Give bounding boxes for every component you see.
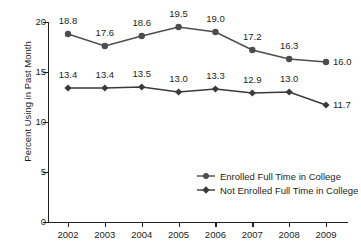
x-tick-label: 2002 bbox=[48, 229, 88, 240]
data-point-label: 18.8 bbox=[48, 15, 88, 26]
data-point-label: 13.4 bbox=[48, 69, 88, 80]
chart-legend: Enrolled Full Time in College Not Enroll… bbox=[196, 169, 358, 197]
data-point-label: 11.7 bbox=[333, 99, 351, 110]
y-tick-label: 20 bbox=[6, 16, 46, 27]
x-tick-mark bbox=[179, 222, 180, 227]
x-tick-mark bbox=[289, 222, 290, 227]
data-point-marker bbox=[138, 83, 145, 90]
data-point-label: 17.2 bbox=[232, 31, 272, 42]
data-point-label: 13.5 bbox=[122, 68, 162, 79]
data-point-marker bbox=[286, 88, 293, 95]
data-point-marker bbox=[175, 88, 182, 95]
data-point-marker bbox=[64, 84, 71, 91]
data-point-marker bbox=[212, 85, 219, 92]
x-tick-label: 2004 bbox=[122, 229, 162, 240]
y-tick-label: 10 bbox=[6, 116, 46, 127]
data-point-marker bbox=[65, 31, 71, 37]
data-point-marker bbox=[323, 59, 329, 65]
y-axis-title: Percent Using in Past Month bbox=[22, 17, 33, 187]
data-point-label: 16.3 bbox=[269, 40, 309, 51]
x-tick-label: 2009 bbox=[306, 229, 346, 240]
data-point-label: 13.0 bbox=[269, 73, 309, 84]
data-point-label: 18.6 bbox=[122, 17, 162, 28]
data-point-marker bbox=[139, 33, 145, 39]
data-point-label: 17.6 bbox=[85, 27, 125, 38]
data-point-label: 12.9 bbox=[232, 74, 272, 85]
x-tick-mark bbox=[142, 222, 143, 227]
data-point-marker bbox=[249, 47, 255, 53]
data-point-label: 16.0 bbox=[333, 56, 352, 67]
x-tick-mark bbox=[326, 222, 327, 227]
x-tick-label: 2006 bbox=[195, 229, 235, 240]
data-point-marker bbox=[212, 29, 218, 35]
y-tick-label: 5 bbox=[6, 166, 46, 177]
x-tick-label: 2005 bbox=[159, 229, 199, 240]
x-tick-mark bbox=[105, 222, 106, 227]
x-tick-label: 2003 bbox=[85, 229, 125, 240]
legend-marker-diamond-icon bbox=[196, 184, 216, 196]
x-tick-mark bbox=[68, 222, 69, 227]
data-point-marker bbox=[249, 89, 256, 96]
data-point-marker bbox=[102, 43, 108, 49]
x-axis-line bbox=[48, 222, 348, 223]
x-tick-label: 2008 bbox=[269, 229, 309, 240]
legend-marker-circle-icon bbox=[196, 170, 216, 182]
legend-item-not-enrolled: Not Enrolled Full Time in College bbox=[196, 183, 358, 197]
data-point-marker bbox=[286, 56, 292, 62]
x-tick-mark bbox=[252, 222, 253, 227]
legend-label-enrolled: Enrolled Full Time in College bbox=[220, 171, 341, 182]
chart-container: Percent Using in Past Month 05101520 200… bbox=[0, 0, 361, 252]
data-point-label: 19.0 bbox=[195, 13, 235, 24]
data-point-marker bbox=[175, 24, 181, 30]
y-tick-label: 15 bbox=[6, 66, 46, 77]
data-point-label: 19.5 bbox=[159, 8, 199, 19]
x-tick-label: 2007 bbox=[232, 229, 272, 240]
data-point-marker bbox=[322, 101, 329, 108]
data-point-marker bbox=[101, 84, 108, 91]
data-point-label: 13.3 bbox=[195, 70, 235, 81]
y-tick-label: 0 bbox=[6, 216, 46, 227]
legend-label-not-enrolled: Not Enrolled Full Time in College bbox=[220, 185, 358, 196]
data-point-label: 13.0 bbox=[159, 73, 199, 84]
legend-item-enrolled: Enrolled Full Time in College bbox=[196, 169, 358, 183]
data-point-label: 13.4 bbox=[85, 69, 125, 80]
x-tick-mark bbox=[215, 222, 216, 227]
